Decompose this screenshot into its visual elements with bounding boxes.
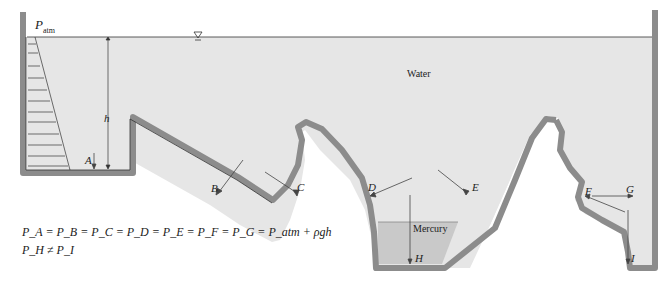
equation-unequal-pressures: P_H ≠ P_I	[22, 244, 74, 256]
point-g-label: G	[626, 184, 634, 195]
point-h-label: H	[415, 253, 423, 264]
equation-equal-pressures: P_A = P_B = P_C = P_D = P_E = P_F = P_G …	[22, 226, 332, 238]
point-f-label: F	[585, 186, 592, 197]
point-b-label: B	[211, 183, 218, 194]
depth-label: h	[104, 113, 110, 124]
mercury-label: Mercury	[413, 224, 447, 234]
patm-label: Patm	[35, 18, 55, 35]
water-label: Water	[407, 69, 431, 79]
point-a-label: A	[85, 155, 92, 166]
point-i-label: I	[631, 253, 635, 264]
point-d-label: D	[368, 182, 376, 193]
water-left-tank	[27, 37, 130, 170]
point-e-label: E	[472, 182, 479, 193]
point-c-label: C	[297, 182, 304, 193]
hydrostatic-diagram	[0, 0, 660, 283]
